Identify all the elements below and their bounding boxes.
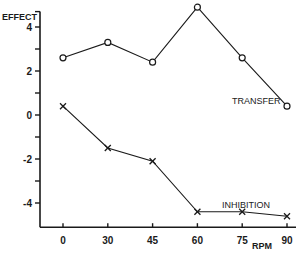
series-line-transfer bbox=[63, 7, 287, 106]
x-tick-label: 75 bbox=[237, 235, 249, 246]
data-point-transfer bbox=[60, 55, 66, 61]
x-tick-label: 45 bbox=[147, 235, 159, 246]
data-point-transfer bbox=[239, 55, 245, 61]
series-label-inhibition: INHIBITION bbox=[222, 200, 270, 210]
data-point-transfer bbox=[105, 39, 111, 45]
x-tick-label: 30 bbox=[102, 235, 114, 246]
y-tick-label: 2 bbox=[26, 66, 32, 77]
data-point-transfer bbox=[150, 59, 156, 65]
data-point-inhibition bbox=[60, 103, 66, 109]
y-tick-label: 4 bbox=[26, 22, 32, 33]
y-axis-title: EFFECT bbox=[2, 12, 38, 22]
x-axis-title: RPM bbox=[252, 241, 272, 251]
data-point-inhibition bbox=[150, 158, 156, 164]
y-tick-label: -2 bbox=[23, 154, 32, 165]
x-tick-label: 60 bbox=[192, 235, 204, 246]
x-tick-label: 90 bbox=[281, 235, 293, 246]
line-chart: 420-2-403045607590 EFFECT RPM TRANSFER I… bbox=[0, 0, 298, 261]
data-point-transfer bbox=[284, 103, 290, 109]
data-point-inhibition bbox=[105, 145, 111, 151]
y-tick-label: 0 bbox=[26, 110, 32, 121]
series-label-transfer: TRANSFER bbox=[232, 96, 281, 106]
data-point-transfer bbox=[194, 4, 200, 10]
x-tick-label: 0 bbox=[60, 235, 66, 246]
y-tick-label: -4 bbox=[23, 198, 32, 209]
